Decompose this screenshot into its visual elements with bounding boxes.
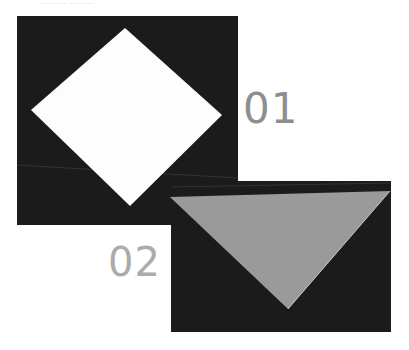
step-2-panel bbox=[171, 181, 391, 332]
step-number-01: 01 bbox=[243, 88, 298, 130]
caption-text: ......... ........ bbox=[40, 0, 94, 6]
step-number-02: 02 bbox=[108, 242, 161, 282]
